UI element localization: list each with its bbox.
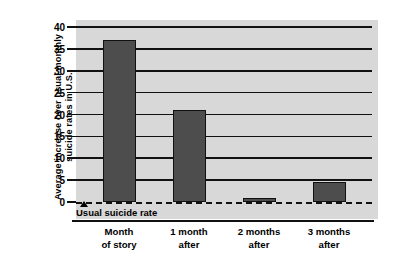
y-axis-title: Average increase over usual monthly suic… — [0, 0, 46, 225]
y-axis-tick-label: 35 — [54, 43, 65, 54]
y-axis-tick-label: 5 — [59, 175, 65, 186]
y-axis-tick-label: 30 — [54, 65, 65, 76]
y-axis-tick — [67, 70, 76, 72]
x-axis-label-line: after — [287, 239, 371, 252]
bar — [313, 182, 346, 202]
x-axis-label: 3 monthsafter — [287, 226, 371, 252]
y-axis-title-line-2: suicide rates in U.S. — [64, 72, 76, 161]
usual-rate-annotation: Usual suicide rate — [76, 207, 157, 219]
y-axis-tick — [67, 201, 76, 203]
gridline — [76, 26, 372, 28]
y-axis-tick — [67, 92, 76, 94]
y-axis-tick — [67, 136, 76, 138]
y-axis-tick-label: 0 — [59, 197, 65, 208]
y-axis-tick-label: 15 — [54, 131, 65, 142]
x-axis-label-line: 3 months — [287, 226, 371, 239]
axis-baseline-rule — [72, 220, 374, 222]
y-axis-tick — [67, 114, 76, 116]
zero-dashed-line — [76, 202, 372, 204]
y-axis-tick-label: 25 — [54, 87, 65, 98]
y-axis-tick — [67, 179, 76, 181]
y-axis-tick-label: 20 — [54, 109, 65, 120]
y-axis-tick — [67, 26, 76, 28]
bar — [243, 198, 276, 202]
y-axis-tick-label: 10 — [54, 153, 65, 164]
y-axis-tick — [67, 157, 76, 159]
x-axis-labels: Monthof story1 monthafter2 monthsafter3 … — [76, 226, 372, 262]
bar — [173, 110, 206, 202]
y-axis-tick — [67, 48, 76, 50]
bar-chart-figure: Average increase over usual monthly suic… — [0, 0, 406, 265]
y-axis-tick-label: 40 — [54, 22, 65, 33]
plot-area: 0510152025303540 — [76, 27, 372, 202]
bar — [103, 40, 136, 202]
